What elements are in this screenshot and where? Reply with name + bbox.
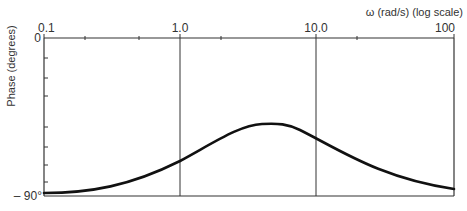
x-tick-label: 100 xyxy=(435,21,455,35)
y-tick-label: 0 xyxy=(34,31,41,45)
x-tick-label: 10.0 xyxy=(304,21,328,35)
y-axis-label: Phase (degrees) xyxy=(5,25,17,106)
x-tick-label: 1.0 xyxy=(172,21,189,35)
phase-curve xyxy=(44,124,454,193)
decade-gridlines xyxy=(44,34,454,196)
x-axis-label: ω (rad/s) (log scale) xyxy=(366,6,463,18)
plot-frame xyxy=(44,38,454,196)
y-tick-label: – 90° xyxy=(14,189,42,203)
x-tick-labels: 0.1 1.0 10.0 100 xyxy=(38,21,455,35)
phase-plot: ω (rad/s) (log scale) 0.1 1.0 10.0 100 P… xyxy=(0,0,467,211)
